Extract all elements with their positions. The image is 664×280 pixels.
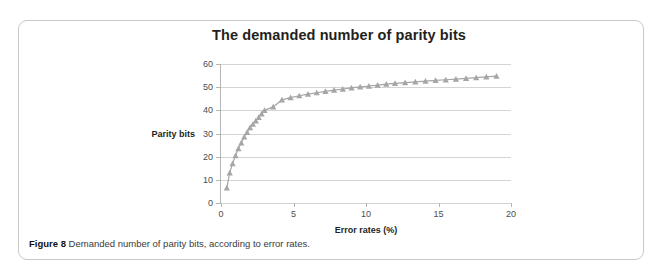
x-tick-10 (366, 203, 367, 207)
data-series (221, 64, 511, 203)
data-point-marker (224, 185, 230, 191)
figure-caption-label: Figure 8 (29, 238, 66, 249)
y-tick-label-0: 0 (208, 198, 213, 208)
series-line (227, 76, 497, 188)
x-tick-20 (511, 203, 512, 207)
figure-caption-text: Demanded number of parity bits, accordin… (69, 238, 310, 249)
x-axis-title: Error rates (%) (221, 225, 511, 235)
y-tick-label-20: 20 (203, 152, 213, 162)
data-point-marker (232, 152, 238, 158)
x-tick-label-10: 10 (361, 209, 371, 219)
data-point-marker (235, 145, 241, 151)
y-tick-label-40: 40 (203, 105, 213, 115)
data-point-marker (238, 140, 244, 146)
y-tick-label-60: 60 (203, 59, 213, 69)
x-tick-label-20: 20 (506, 209, 516, 219)
y-tick-label-10: 10 (203, 175, 213, 185)
chart-plot: 0102030405060 05101520 Parity bits Error… (19, 21, 645, 261)
x-tick-0 (221, 203, 222, 207)
x-tick-label-0: 0 (218, 209, 223, 219)
x-tick-5 (294, 203, 295, 207)
plot-area: 0102030405060 05101520 Parity bits Error… (221, 64, 511, 203)
y-tick-label-30: 30 (203, 129, 213, 139)
data-point-marker (230, 161, 236, 167)
y-axis-title: Parity bits (151, 129, 195, 139)
figure-caption: Figure 8 Demanded number of parity bits,… (29, 238, 629, 250)
x-tick-label-5: 5 (291, 209, 296, 219)
data-point-marker (227, 170, 233, 176)
y-tick-label-50: 50 (203, 82, 213, 92)
x-tick-15 (439, 203, 440, 207)
figure-card: The demanded number of parity bits 01020… (18, 20, 644, 260)
x-tick-label-15: 15 (433, 209, 443, 219)
